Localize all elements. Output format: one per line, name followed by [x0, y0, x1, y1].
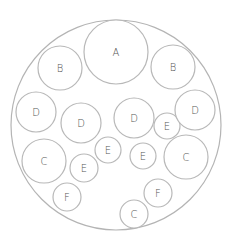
- circle-d: D: [61, 103, 101, 143]
- circle-label: F: [64, 192, 70, 203]
- circle-label: D: [32, 107, 40, 118]
- circle-c: C: [120, 200, 148, 228]
- circle-label: C: [131, 209, 138, 220]
- circle-label: D: [77, 118, 85, 129]
- circle-label: A: [113, 47, 120, 58]
- circle-d: D: [16, 92, 56, 132]
- circle-label: E: [164, 121, 170, 132]
- circle-packing-diagram: ABBDDDEDCEECEFFC: [0, 0, 231, 237]
- circle-label: C: [41, 156, 48, 167]
- circle-label: D: [191, 105, 199, 116]
- circle-e: E: [95, 137, 121, 163]
- circle-b: B: [151, 45, 195, 89]
- circle-e: E: [130, 143, 156, 169]
- circle-label: B: [57, 63, 64, 74]
- circle-label: F: [155, 188, 161, 199]
- circle-f: F: [53, 183, 81, 211]
- circle-e: E: [70, 154, 98, 182]
- circle-label: E: [105, 145, 111, 156]
- circle-f: F: [144, 179, 172, 207]
- circle-d: D: [114, 98, 154, 138]
- circle-a: A: [84, 20, 148, 84]
- circle-label: D: [130, 113, 138, 124]
- circle-d: D: [175, 90, 215, 130]
- circle-c: C: [164, 135, 208, 179]
- circle-label: E: [140, 151, 146, 162]
- inner-circles: ABBDDDEDCEECEFFC: [16, 20, 215, 228]
- circle-label: E: [81, 163, 87, 174]
- circle-label: B: [170, 62, 177, 73]
- circle-c: C: [22, 139, 66, 183]
- circle-b: B: [38, 46, 82, 90]
- circle-label: C: [183, 152, 190, 163]
